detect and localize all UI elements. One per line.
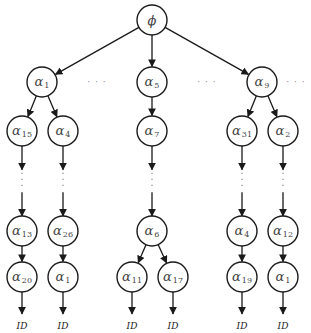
tree-node: α17	[158, 262, 188, 292]
leaf-output: ID	[126, 292, 138, 331]
edge-arrow	[56, 27, 139, 74]
horizontal-ellipsis-icon: · · ·	[87, 77, 106, 87]
id-label: ID	[277, 321, 289, 331]
id-label: ID	[16, 321, 28, 331]
id-label: ID	[57, 321, 69, 331]
tree-node: α2	[268, 116, 298, 146]
tree-node: α19	[227, 262, 257, 292]
horizontal-ellipsis-icon: · · ·	[286, 77, 305, 87]
edge-arrow	[268, 96, 277, 117]
edge-arrow	[28, 96, 36, 117]
tree-node: α9	[247, 67, 277, 97]
elided-paths-layer	[22, 146, 283, 216]
leaf-output: ID	[16, 292, 28, 331]
edge-arrow	[165, 27, 248, 74]
tree-node: α12	[268, 216, 298, 246]
tree-node: α1	[48, 262, 78, 292]
root-label: ϕ	[148, 13, 157, 28]
tree-node: α13	[7, 216, 37, 246]
edge-arrow	[248, 96, 256, 117]
tree-node: α26	[48, 216, 78, 246]
edge-arrow	[48, 96, 57, 117]
root-node: ϕ	[137, 5, 167, 35]
edge-arrow	[158, 245, 166, 263]
tree-node: α1	[27, 67, 57, 97]
edge-arrow	[138, 245, 146, 263]
leaf-output: ID	[236, 292, 248, 331]
leaf-outputs-layer: IDIDIDIDIDID	[16, 292, 289, 331]
leaf-output: ID	[57, 292, 69, 331]
tree-node: α7	[137, 116, 167, 146]
tree-node: α1	[268, 262, 298, 292]
horizontal-ellipsis-icon: · · ·	[197, 77, 216, 87]
tree-node: α15	[7, 116, 37, 146]
leaf-output: ID	[277, 292, 289, 331]
id-label: ID	[236, 321, 248, 331]
tree-node: α5	[137, 67, 167, 97]
id-label: ID	[167, 321, 179, 331]
tree-node: α4	[227, 216, 257, 246]
tree-node: α31	[227, 116, 257, 146]
tree-node: α20	[7, 262, 37, 292]
leaf-output: ID	[167, 292, 179, 331]
id-label: ID	[126, 321, 138, 331]
tree-node: α4	[48, 116, 78, 146]
tree-node: α11	[117, 262, 147, 292]
prefix-tree-diagram: IDIDIDIDIDID ϕα1α5α9α15α4α7α31α2α13α26α6…	[0, 0, 311, 333]
tree-node: α6	[137, 216, 167, 246]
